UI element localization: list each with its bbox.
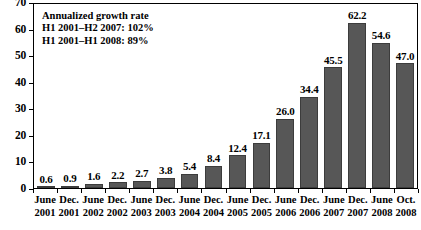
x-axis-label: Dec.2007 (346, 193, 370, 219)
bar-value-label: 12.4 (228, 142, 246, 154)
bar (133, 181, 151, 188)
bar-slot: 8.4 (202, 4, 226, 188)
x-axis-label-month: Dec. (250, 193, 274, 206)
bar-slot: 0.9 (58, 4, 82, 188)
x-axis-label: Dec.2004 (201, 193, 225, 219)
x-axis-label-year: 2004 (177, 206, 201, 219)
bar-value-label: 5.4 (183, 160, 196, 172)
x-axis-label: June2008 (370, 193, 394, 219)
bar-slot: 2.7 (130, 4, 154, 188)
x-axis-label-year: 2005 (250, 206, 274, 219)
x-axis-label-year: 2003 (153, 206, 177, 219)
bar (300, 97, 318, 188)
x-axis-label-month: June (370, 193, 394, 206)
x-axis-label: June2002 (81, 193, 105, 219)
x-axis-label-year: 2001 (57, 206, 81, 219)
bar-slot: 54.6 (369, 4, 393, 188)
bar-slot: 17.1 (249, 4, 273, 188)
x-axis-label: June2006 (274, 193, 298, 219)
x-axis-label-year: 2006 (274, 206, 298, 219)
bar (61, 186, 79, 188)
x-axis-label-year: 2007 (322, 206, 346, 219)
x-axis-label-month: Dec. (201, 193, 225, 206)
x-axis-label-month: Dec. (298, 193, 322, 206)
bar-value-label: 26.0 (276, 105, 294, 117)
bar-value-label: 0.9 (63, 172, 76, 184)
bar-value-label: 3.8 (159, 164, 172, 176)
bar (396, 63, 414, 188)
bar-slot: 2.2 (106, 4, 130, 188)
x-axis: June2001Dec.2001June2002Dec.2002June2003… (33, 189, 418, 230)
x-axis-label-year: 2008 (394, 206, 418, 219)
bar-slot: 5.4 (178, 4, 202, 188)
bar-slot: 34.4 (297, 4, 321, 188)
bar (324, 67, 342, 188)
x-axis-label: June2003 (129, 193, 153, 219)
bar-slot: 62.2 (345, 4, 369, 188)
bar-slot: 45.5 (321, 4, 345, 188)
y-axis-tick-label: 0 (20, 182, 26, 194)
bar-slot: 12.4 (226, 4, 250, 188)
y-axis-tick-label: 60 (15, 23, 26, 35)
x-axis-label-year: 2005 (226, 206, 250, 219)
x-axis-label-year: 2002 (81, 206, 105, 219)
x-axis-label-month: Dec. (57, 193, 81, 206)
bar (37, 186, 55, 188)
x-axis-label: Dec.2002 (105, 193, 129, 219)
bar (348, 23, 366, 188)
bar-value-label: 0.6 (39, 173, 52, 185)
bar-slot: 0.6 (34, 4, 58, 188)
bar-slot: 26.0 (273, 4, 297, 188)
x-axis-label-month: Oct. (394, 193, 418, 206)
bar (276, 119, 294, 188)
bar (372, 43, 390, 188)
y-axis-tick-label: 50 (15, 49, 26, 61)
x-axis-label-year: 2006 (298, 206, 322, 219)
bar-value-label: 2.7 (135, 167, 148, 179)
bar-value-label: 8.4 (207, 152, 220, 164)
bar (181, 174, 199, 188)
bar-series: 0.60.91.62.22.73.85.48.412.417.126.034.4… (34, 4, 417, 188)
x-axis-label-month: Dec. (105, 193, 129, 206)
x-axis-label: June2001 (33, 193, 57, 219)
bar (253, 143, 271, 188)
bar (157, 178, 175, 188)
x-axis-label-month: Dec. (346, 193, 370, 206)
y-axis-tick-label: 20 (15, 129, 26, 141)
x-axis-label: Dec.2003 (153, 193, 177, 219)
y-axis-tick-label: 10 (15, 155, 26, 167)
x-axis-label-year: 2001 (33, 206, 57, 219)
bar (229, 155, 247, 188)
bar-value-label: 45.5 (324, 54, 342, 66)
bar-slot: 1.6 (82, 4, 106, 188)
plot-area: Annualized growth rateH1 2001–H2 2007: 1… (33, 3, 418, 189)
x-axis-label: Dec.2005 (250, 193, 274, 219)
y-axis-tick-label: 70 (15, 0, 26, 8)
x-axis-label-month: June (129, 193, 153, 206)
x-axis-label-month: June (274, 193, 298, 206)
x-axis-label-year: 2008 (370, 206, 394, 219)
bar-slot: 3.8 (154, 4, 178, 188)
bar-value-label: 62.2 (348, 9, 366, 21)
bar-slot: 47.0 (393, 4, 417, 188)
x-axis-labels: June2001Dec.2001June2002Dec.2002June2003… (33, 193, 418, 219)
bar-value-label: 54.6 (372, 29, 390, 41)
x-axis-label-month: June (322, 193, 346, 206)
x-axis-label: June2007 (322, 193, 346, 219)
x-axis-label-month: Dec. (153, 193, 177, 206)
x-axis-label: June2004 (177, 193, 201, 219)
x-axis-label-month: June (33, 193, 57, 206)
x-axis-label: June2005 (226, 193, 250, 219)
bar-value-label: 34.4 (300, 83, 318, 95)
x-axis-tick-mark (418, 189, 419, 193)
y-axis-tick-label: 40 (15, 76, 26, 88)
x-axis-label-month: June (81, 193, 105, 206)
y-axis-tick-label: 30 (15, 102, 26, 114)
bar-value-label: 47.0 (396, 50, 414, 62)
x-axis-label: Oct.2008 (394, 193, 418, 219)
bar (85, 184, 103, 188)
bar (109, 182, 127, 188)
x-axis-label-year: 2003 (129, 206, 153, 219)
bar-value-label: 2.2 (111, 169, 124, 181)
bar-value-label: 1.6 (87, 170, 100, 182)
